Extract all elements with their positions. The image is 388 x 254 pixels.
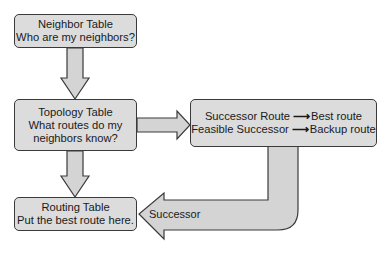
topology-table-line2: What routes do my [29, 119, 123, 132]
feasible-successor-row: Feasible Successor ⟶ Backup route [191, 123, 376, 136]
topology-table-node: Topology Table What routes do my neighbo… [14, 99, 137, 151]
neighbor-table-node: Neighbor Table Who are my neighbors? [14, 14, 137, 48]
neighbor-table-subtitle: Who are my neighbors? [16, 31, 135, 44]
arrow-neighbor-to-topology [61, 48, 89, 99]
neighbor-table-title: Neighbor Table [38, 18, 113, 31]
successor-arrow-label: Successor [149, 208, 200, 220]
right-arrow-icon: ⟶ [292, 123, 309, 136]
successor-route-row: Successor Route ⟶ Best route [205, 110, 362, 123]
routing-table-subtitle: Put the best route here. [17, 214, 134, 227]
arrow-topology-to-successor [137, 111, 190, 139]
topology-table-line3: neighbors know? [33, 132, 118, 145]
backup-route-label: Backup route [310, 123, 376, 136]
successor-node: Successor Route ⟶ Best route Feasible Su… [190, 99, 377, 147]
arrow-successor-to-routing [139, 146, 298, 239]
routing-table-node: Routing Table Put the best route here. [14, 197, 137, 231]
successor-route-label: Successor Route [205, 110, 290, 123]
routing-table-title: Routing Table [41, 201, 109, 214]
feasible-successor-label: Feasible Successor [191, 123, 289, 136]
arrow-topology-to-routing [61, 151, 89, 197]
topology-table-title: Topology Table [38, 106, 112, 119]
best-route-label: Best route [311, 110, 362, 123]
